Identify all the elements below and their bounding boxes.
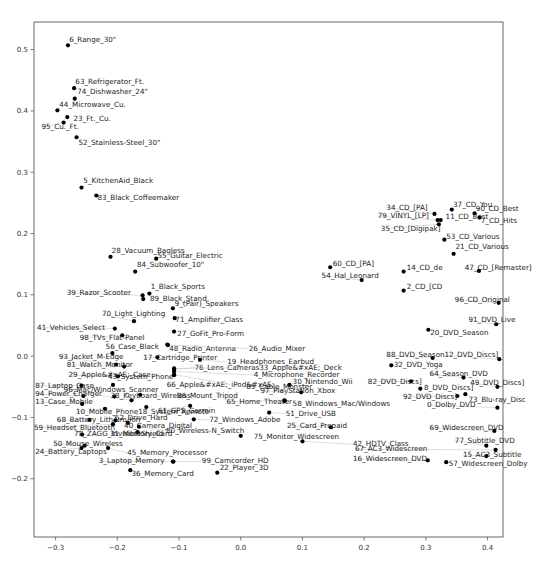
x-tick-label: −0.3 [47,544,64,552]
data-point: 74_Dishwasher_24" [73,87,148,100]
point-label: 84_Subwoofer_10" [137,260,204,269]
point-marker [172,330,176,334]
point-label: 7_CD_Hits [481,216,518,225]
point-marker [444,460,448,464]
point-label: 32_DVD_Yoga [394,360,443,369]
point-label: 2_CD_[CD [407,282,443,291]
y-tick-label: 0.1 [17,291,28,299]
data-point: 22_Player_3D [215,463,269,475]
point-label: 26_Audio_Mixer [249,344,305,353]
point-label: 60_CD_[PA] [333,259,374,268]
point-marker [113,326,117,330]
point-label: 54_Hal_Leonard [322,271,379,280]
point-label: 57_Widescreen_Dolby [449,459,529,468]
point-marker [328,265,332,269]
data-point: 81_Watch_Monitor [67,360,133,369]
point-label: 82_DVD_Discs] [368,377,422,386]
data-point: 76_Lens_Cameras [172,363,260,372]
point-label: 39_Razor_Scooter [67,288,131,297]
data-point: 5_KitchenAid_Black [79,176,153,189]
x-tick-label: −0.1 [171,544,188,552]
x-tick-label: 0.4 [482,544,494,552]
point-label: 23_Ft._Cu. [73,114,110,123]
data-point: 71_Amplifier_Class [173,315,244,324]
data-point: 95_Cu._Ft. [41,120,78,131]
point-label: 21_CD_Various [455,242,509,251]
data-point: 60_CD_[PA] [328,259,374,269]
point-marker [432,212,436,216]
x-tick-label: 0.3 [420,544,431,552]
data-point: 58_Windows_Mac/Windows [282,399,390,408]
point-label: 49_DVD_Discs] [470,378,524,387]
point-label: 77_Subtitle_DVD [455,436,515,445]
data-point: 32_DVD_Yoga [389,360,443,369]
point-label: 70_Light_Lighting [102,309,165,318]
point-marker [452,252,456,256]
point-marker [79,185,83,189]
point-marker [239,434,243,438]
point-label: 41_Vehicles_Select [37,323,105,332]
data-point: 6_Range_30" [66,35,116,48]
point-marker [463,392,467,396]
point-label: 35_CD_[Digipak] [381,224,441,233]
point-label: 36_Memory_Card [132,469,194,478]
x-tick-label: −0.2 [109,544,126,552]
label-leader-line [302,441,353,444]
point-marker [172,372,176,376]
point-marker [141,297,145,301]
data-point: 44_Microwave_Cu. [55,100,125,112]
point-label: 51_Drive_USB [286,409,336,418]
point-marker [133,269,137,273]
data-point: 36_Memory_Card [128,468,194,478]
point-label: 9_(Pair)_Speakers [175,299,239,308]
data-point: 72_Windows_Adobe [192,415,281,424]
data-point: 3_Laptop_Memory [99,456,175,465]
data-point: 75_Monitor_Widescreen [239,432,340,441]
data-point: 53_CD_Various [442,232,500,242]
point-label: 48_Radio_Antenna [169,344,236,353]
x-tick-label: 0.2 [359,544,370,552]
point-label: 65_Home_Theater [227,397,293,406]
label-leader-line [269,413,286,414]
point-marker [198,358,202,362]
point-label: 20_DVD_Season [430,328,488,337]
point-marker [389,363,393,367]
point-marker [300,439,304,443]
point-label: 52_Stainless-Steel_30" [78,138,160,147]
point-label: 27_GoFit_Pro-Form [177,329,244,338]
y-tick-label: 0.4 [17,107,29,115]
point-label: 63_Refrigerator_Ft. [75,77,144,86]
y-tick-label: 0.3 [17,169,28,177]
data-point: 88_DVD_Season [386,350,444,360]
y-tick-label: −0.2 [11,475,28,483]
point-label: 53_CD_Various [446,232,500,241]
point-marker [66,43,70,47]
point-label: 12_DVD_Discs] [444,350,498,359]
point-marker [402,288,406,292]
y-tick-label: 0.2 [17,230,28,238]
data-point: 98_TVs_Flat-Panel [80,333,145,342]
point-label: 22_Player_3D [220,463,269,472]
data-point: 84_Subwoofer_10" [133,260,204,273]
point-marker [141,293,145,297]
data-point: 49_DVD_Discs] [470,378,524,389]
point-label: 72_Windows_Adobe [209,415,281,424]
point-marker [171,459,175,463]
point-marker [106,446,110,450]
point-marker [72,86,76,90]
point-marker [132,319,136,323]
data-point: 13_Case_Mobile [35,397,93,406]
x-tick-label: 0.0 [235,544,246,552]
point-label: 81_Watch_Monitor [67,360,133,369]
point-marker [439,218,443,222]
y-axis: −0.2−0.10.00.10.20.30.40.5 [11,46,34,483]
point-marker [137,425,141,429]
point-marker [65,115,69,119]
point-label: 56_Case_Black [106,342,160,351]
point-label: 6_Range_30" [69,35,116,44]
data-point: 96_CD_Original [455,295,510,305]
point-marker [402,269,406,273]
point-label: 67_AC3_Widescreen [355,444,428,453]
data-point: 25_Card_Prepaid [287,421,347,430]
point-marker [108,255,112,259]
